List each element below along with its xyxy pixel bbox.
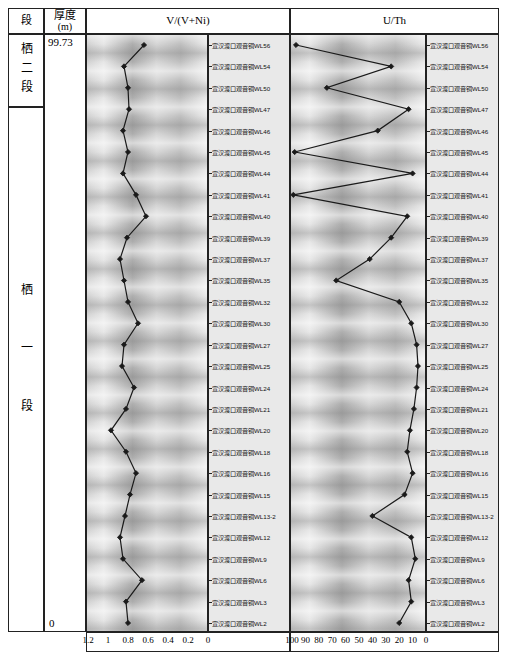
sample-label: 宣汉渡口观音铜WL44 xyxy=(212,169,270,178)
sample-tick xyxy=(209,131,212,132)
axis-tick-label: 20 xyxy=(395,635,404,645)
sample-label: 宣汉渡口观音铜WL32 xyxy=(430,297,488,306)
axis-tick-label: 30 xyxy=(381,635,390,645)
sample-label: 宣汉渡口观音铜WL44 xyxy=(430,169,488,178)
axis-tick-label: 0.4 xyxy=(162,635,173,645)
sample-tick xyxy=(427,302,430,303)
sample-tick xyxy=(427,88,430,89)
sample-label: 宣汉渡口观音铜WL24 xyxy=(212,383,270,392)
sample-tick xyxy=(209,216,212,217)
sample-tick xyxy=(427,559,430,560)
sample-label: 宣汉渡口观音铜WL45 xyxy=(430,148,488,157)
column-header-section: 段 xyxy=(8,8,44,34)
sample-label: 宣汉渡口观音铜WL6 xyxy=(212,576,267,585)
sample-tick xyxy=(427,216,430,217)
sample-label: 宣汉渡口观音铜WL32 xyxy=(212,297,270,306)
sample-tick xyxy=(209,537,212,538)
sample-tick xyxy=(209,259,212,260)
data-point xyxy=(397,299,402,304)
sample-label: 宣汉渡口观音铜WL9 xyxy=(430,554,485,563)
plot-u-th xyxy=(290,34,426,632)
sample-tick xyxy=(209,602,212,603)
sample-label: 宣汉渡口观音铜WL25 xyxy=(212,362,270,371)
column-header-section-label: 段 xyxy=(21,15,32,27)
thickness-cell: 99.73 0 xyxy=(44,34,86,632)
sample-tick xyxy=(427,131,430,132)
data-point xyxy=(117,256,122,261)
sample-tick xyxy=(209,195,212,196)
sample-label: 宣汉渡口观音铜WL2 xyxy=(212,619,267,628)
sample-label: 宣汉渡口观音铜WL12 xyxy=(212,533,270,542)
data-point xyxy=(125,620,130,625)
sample-tick xyxy=(209,495,212,496)
chart-title-u-th-label: U/Th xyxy=(383,15,406,27)
data-point xyxy=(410,471,415,476)
data-point xyxy=(125,85,130,90)
sample-tick xyxy=(427,580,430,581)
sample-tick xyxy=(427,430,430,431)
sample-label: 宣汉渡口观音铜WL24 xyxy=(430,383,488,392)
sample-tick xyxy=(427,366,430,367)
data-point xyxy=(324,85,329,90)
sample-tick xyxy=(427,388,430,389)
sample-tick xyxy=(427,516,430,517)
data-point xyxy=(131,385,136,390)
sample-tick xyxy=(209,280,212,281)
sample-tick xyxy=(209,516,212,517)
sample-label: 宣汉渡口观音铜WL9 xyxy=(212,554,267,563)
axis-tick-label: 10 xyxy=(408,635,417,645)
sample-label: 宣汉渡口观音铜WL3 xyxy=(430,597,485,606)
plot-u-th-series xyxy=(291,35,426,632)
sample-label: 宣汉渡口观音铜WL16 xyxy=(430,469,488,478)
thickness-bottom-value: 0 xyxy=(49,617,55,629)
data-point xyxy=(117,535,122,540)
chart-title-v-ni: V/(V+Ni) xyxy=(86,8,290,34)
sample-label: 宣汉渡口观音铜WL54 xyxy=(430,62,488,71)
sample-tick xyxy=(427,495,430,496)
sample-label: 宣汉渡口观音铜WL18 xyxy=(212,447,270,456)
data-point xyxy=(405,449,410,454)
sample-tick xyxy=(209,345,212,346)
section-cell-lower: 栖一段 xyxy=(8,107,44,632)
data-point xyxy=(133,471,138,476)
data-point xyxy=(120,128,125,133)
section-cell-upper: 栖二段 xyxy=(8,34,44,107)
sample-tick xyxy=(427,473,430,474)
sample-label: 宣汉渡口观音铜WL13-2 xyxy=(212,511,276,520)
sample-label: 宣汉渡口观音铜WL50 xyxy=(212,83,270,92)
sample-tick xyxy=(427,452,430,453)
sample-tick xyxy=(427,66,430,67)
sample-label: 宣汉渡口观音铜WL2 xyxy=(430,619,485,628)
data-point xyxy=(409,599,414,604)
data-point xyxy=(409,535,414,540)
sample-tick xyxy=(427,45,430,46)
data-point xyxy=(409,321,414,326)
sample-tick xyxy=(427,537,430,538)
axis-tick-label: 40 xyxy=(368,635,377,645)
sample-label: 宣汉渡口观音铜WL39 xyxy=(212,233,270,242)
sample-tick xyxy=(427,259,430,260)
sample-tick xyxy=(209,559,212,560)
sample-tick xyxy=(209,45,212,46)
sample-label: 宣汉渡口观音铜WL25 xyxy=(430,362,488,371)
sample-tick xyxy=(427,323,430,324)
sample-tick xyxy=(209,388,212,389)
data-point xyxy=(121,278,126,283)
thickness-top-value: 99.73 xyxy=(48,36,73,48)
axis-tick-label: 0 xyxy=(424,635,429,645)
sample-label: 宣汉渡口观音铜WL41 xyxy=(430,190,488,199)
x-axis-u-th: 1009080706050403020100 xyxy=(290,632,499,652)
sample-tick xyxy=(209,173,212,174)
sample-tick xyxy=(209,430,212,431)
sample-label: 宣汉渡口观音铜WL20 xyxy=(430,426,488,435)
sample-tick xyxy=(427,152,430,153)
data-point xyxy=(389,64,394,69)
data-point xyxy=(410,171,415,176)
sample-label: 宣汉渡口观音铜WL20 xyxy=(212,426,270,435)
axis-tick-label: 0.2 xyxy=(182,635,193,645)
sample-label: 宣汉渡口观音铜WL47 xyxy=(212,105,270,114)
axis-tick-label: 1 xyxy=(106,635,111,645)
sample-tick xyxy=(209,473,212,474)
sample-label: 宣汉渡口观音铜WL15 xyxy=(212,490,270,499)
sample-tick xyxy=(209,238,212,239)
